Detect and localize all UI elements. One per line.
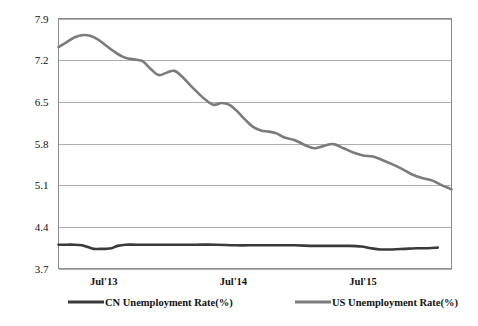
y-tick-label: 7.2	[35, 54, 49, 66]
x-tick-label: Jul'14	[220, 276, 248, 287]
legend-label-cn: CN Unemployment Rate(%)	[105, 297, 233, 309]
y-tick-label: 5.1	[35, 179, 49, 191]
y-tick-label: 7.9	[35, 13, 49, 25]
chart-canvas: 3.74.45.15.86.57.27.9 Jul'13Jul'14Jul'15…	[0, 0, 478, 326]
x-tick-label: Jul'13	[90, 276, 117, 287]
legend-label-us: US Unemployment Rate(%)	[332, 297, 458, 309]
y-tick-label: 6.5	[35, 96, 49, 108]
x-tick-label: Jul'15	[349, 276, 376, 287]
unemployment-rate-line-chart: 3.74.45.15.86.57.27.9 Jul'13Jul'14Jul'15…	[0, 0, 478, 326]
y-tick-label: 3.7	[35, 263, 49, 275]
y-tick-label: 4.4	[35, 221, 49, 233]
y-tick-label: 5.8	[35, 138, 49, 150]
